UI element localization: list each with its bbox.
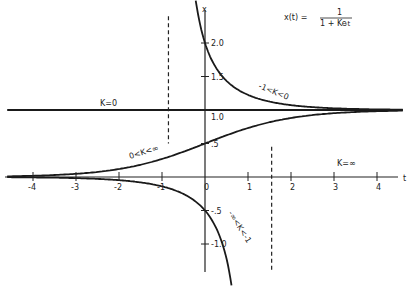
series-label-kinf: K=∞ xyxy=(337,159,356,168)
y-tick-label: -.5 xyxy=(211,207,222,216)
y-tick-label: 2.0 xyxy=(211,39,224,48)
series-line xyxy=(7,177,231,285)
x-tick-label: 4 xyxy=(376,183,381,192)
x-tick-label: 1 xyxy=(247,183,252,192)
y-tick-label: .5 xyxy=(211,140,219,149)
y-tick-label: 1.0 xyxy=(211,113,224,122)
x-tick-label: -1 xyxy=(157,183,165,192)
y-tick-label: 1.5 xyxy=(211,73,224,82)
x-tick-label: -3 xyxy=(71,183,79,192)
series-label-pos: 0<K<∞ xyxy=(128,143,160,160)
x-tick-label: -2 xyxy=(114,183,122,192)
formula-exponent: -t xyxy=(345,20,351,28)
logistic-chart: -4-3-2-1012342.01.51.0.5-.5-1.0 x t x(t)… xyxy=(0,0,411,286)
series-label-neg-small: -1<K<0 xyxy=(257,82,290,102)
series-label-k0: K=0 xyxy=(100,99,117,108)
x-tick-label: 2 xyxy=(290,183,295,192)
x-tick-label: 0 xyxy=(204,183,209,192)
formula: x(t) = 1 1 + Ke -t xyxy=(284,8,352,28)
formula-numerator: 1 xyxy=(337,8,342,17)
x-tick-label: 3 xyxy=(333,183,338,192)
series-label-neg-large: -∞<K<-1 xyxy=(226,209,253,244)
formula-lhs: x(t) = xyxy=(284,13,307,22)
formula-denominator: 1 + Ke xyxy=(320,19,347,28)
x-tick-label: -4 xyxy=(28,183,36,192)
x-axis-label: t xyxy=(403,174,406,183)
y-axis-label: x xyxy=(202,5,207,14)
y-tick-label: -1.0 xyxy=(211,240,227,249)
